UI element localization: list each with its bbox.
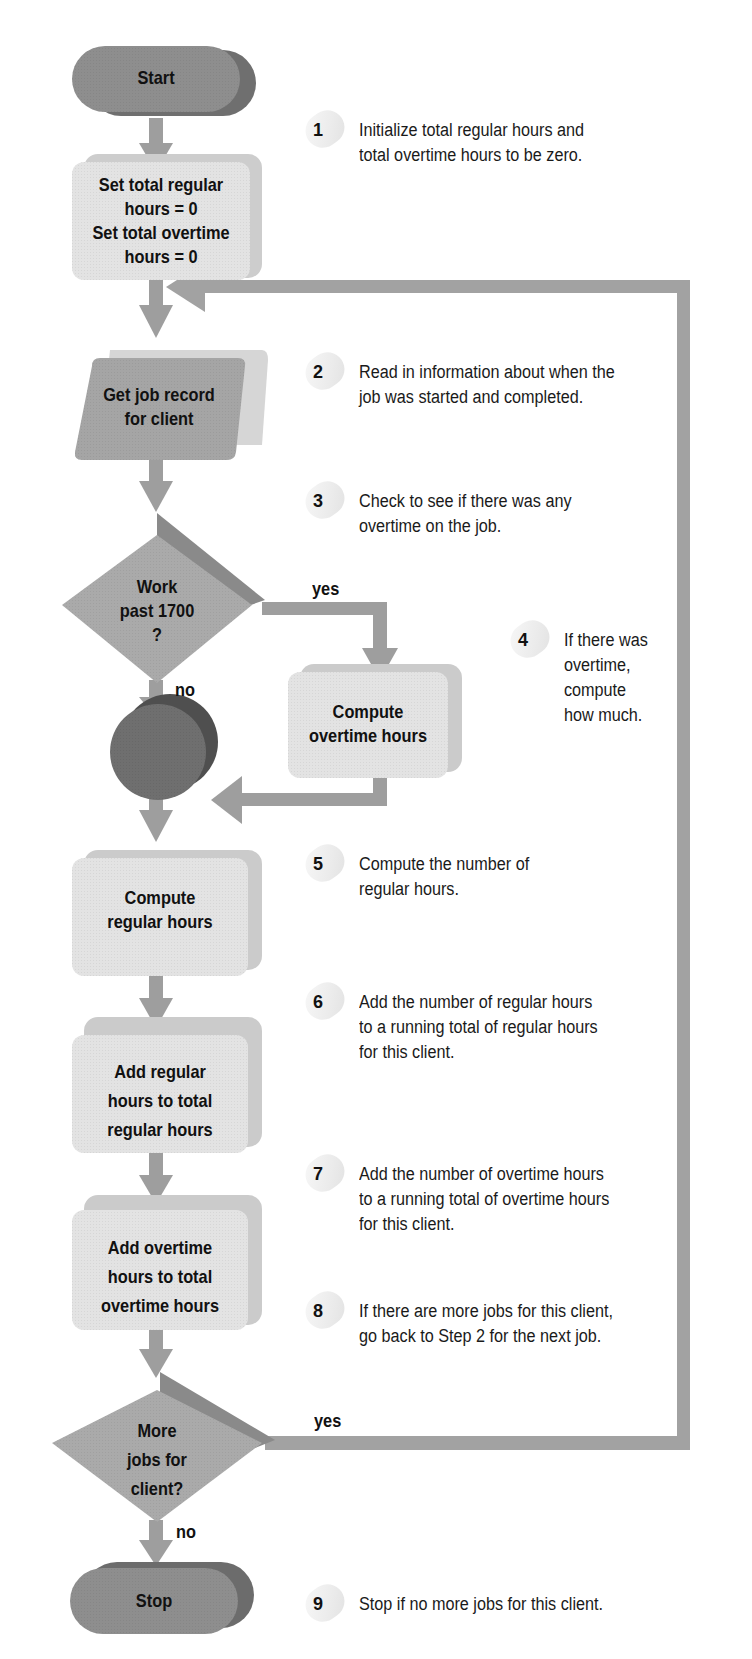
step-number: 5 (313, 854, 323, 875)
more-jobs-no-label: no (176, 1521, 196, 1543)
step-text: Initialize total regular hours and total… (359, 118, 584, 168)
step-text: Check to see if there was any overtime o… (359, 489, 572, 539)
init-label: Set total regular hours = 0 Set total ov… (84, 173, 237, 269)
add-overtime-label-line: hours to total (84, 1262, 235, 1291)
step-text: Read in information about when the job w… (359, 360, 615, 410)
step-number-badge: 3 (305, 491, 345, 525)
stop-label: Stop (82, 1589, 226, 1613)
step-number: 3 (313, 491, 323, 512)
compute-regular-label: Compute regular hours (84, 886, 235, 934)
step-annotation-4: 4 If there was overtime, compute how muc… (510, 630, 657, 728)
add-overtime-label: Add overtime hours to total overtime hou… (84, 1233, 235, 1320)
step-number-badge: 4 (510, 630, 550, 664)
compute-overtime-label-line: Compute (299, 700, 437, 724)
get-record-label: Get job record for client (86, 383, 232, 431)
step-number: 7 (313, 1164, 323, 1185)
step-text-line: to a running total of overtime hours (359, 1187, 609, 1212)
step-text-line: If there was (564, 628, 648, 653)
more-jobs-label-line: jobs for (101, 1445, 213, 1474)
step-text-line: Initialize total regular hours and (359, 118, 584, 143)
step-annotation-5: 5 Compute the number of regular hours. (305, 854, 548, 902)
work-past-label-line: past 1700 (101, 599, 213, 623)
step-annotation-7: 7 Add the number of overtime hours to a … (305, 1164, 637, 1237)
step-number: 6 (313, 992, 323, 1013)
step-text-line: If there are more jobs for this client, (359, 1299, 613, 1324)
step-annotation-6: 6 Add the number of regular hours to a r… (305, 992, 624, 1065)
get-record-label-line: for client (86, 407, 232, 431)
init-label-line: Set total overtime (84, 221, 237, 245)
more-jobs-label-line: client? (101, 1474, 213, 1503)
init-label-line: hours = 0 (84, 245, 237, 269)
step-number-badge: 5 (305, 854, 345, 888)
step-number-badge: 2 (305, 362, 345, 396)
step-text-line: Stop if no more jobs for this client. (359, 1592, 603, 1617)
step-text: Stop if no more jobs for this client. (359, 1592, 603, 1617)
step-number-badge: 9 (305, 1594, 345, 1628)
more-jobs-label-line: More (101, 1416, 213, 1445)
step-number: 8 (313, 1301, 323, 1322)
step-annotation-1: 1 Initialize total regular hours and tot… (305, 120, 609, 168)
step-text: If there are more jobs for this client, … (359, 1299, 613, 1349)
work-past-no-label: no (175, 679, 195, 701)
add-overtime-label-line: Add overtime (84, 1233, 235, 1262)
step-text-line: Read in information about when the (359, 360, 615, 385)
step-text-line: Add the number of regular hours (359, 990, 598, 1015)
add-overtime-label-line: overtime hours (84, 1291, 235, 1320)
compute-regular-label-line: regular hours (84, 910, 235, 934)
work-past-label-line: ? (101, 623, 213, 647)
step-number-badge: 8 (305, 1301, 345, 1335)
step-number-badge: 1 (305, 120, 345, 154)
add-regular-label: Add regular hours to total regular hours (84, 1057, 235, 1144)
step-text-line: Check to see if there was any (359, 489, 572, 514)
step-text: If there was overtime, compute how much. (564, 628, 648, 728)
more-jobs-label: More jobs for client? (101, 1416, 213, 1503)
step-text-line: compute (564, 678, 648, 703)
step-number: 4 (518, 630, 528, 651)
work-past-label-line: Work (101, 575, 213, 599)
flowchart-canvas: Start Set total regular hours = 0 Set to… (0, 0, 752, 1659)
step-text: Compute the number of regular hours. (359, 852, 529, 902)
compute-overtime-label-line: overtime hours (299, 724, 437, 748)
step-annotation-3: 3 Check to see if there was any overtime… (305, 491, 595, 539)
step-text-line: Compute the number of (359, 852, 529, 877)
add-regular-label-line: hours to total (84, 1086, 235, 1115)
step-text-line: job was started and completed. (359, 385, 615, 410)
step-text-line: total overtime hours to be zero. (359, 143, 584, 168)
step-text-line: for this client. (359, 1040, 598, 1065)
step-number: 2 (313, 362, 323, 383)
work-past-label: Work past 1700 ? (101, 575, 213, 647)
step-annotation-8: 8 If there are more jobs for this client… (305, 1301, 641, 1349)
init-label-line: hours = 0 (84, 197, 237, 221)
step-number: 1 (313, 120, 323, 141)
add-regular-label-line: regular hours (84, 1115, 235, 1144)
step-text-line: for this client. (359, 1212, 609, 1237)
step-annotation-9: 9 Stop if no more jobs for this client. (305, 1594, 630, 1628)
step-text-line: Add the number of overtime hours (359, 1162, 609, 1187)
get-record-label-line: Get job record (86, 383, 232, 407)
step-text-line: overtime, (564, 653, 648, 678)
step-number-badge: 6 (305, 992, 345, 1026)
compute-regular-label-line: Compute (84, 886, 235, 910)
init-label-line: Set total regular (84, 173, 237, 197)
step-text-line: regular hours. (359, 877, 529, 902)
compute-overtime-label: Compute overtime hours (299, 700, 437, 748)
step-number-badge: 7 (305, 1164, 345, 1198)
step-annotation-2: 2 Read in information about when the job… (305, 362, 643, 410)
start-label: Start (84, 66, 228, 90)
step-text: Add the number of regular hours to a run… (359, 990, 598, 1065)
step-text: Add the number of overtime hours to a ru… (359, 1162, 609, 1237)
step-number: 9 (313, 1594, 323, 1615)
connector-shape (110, 694, 218, 800)
step-text-line: overtime on the job. (359, 514, 572, 539)
work-past-yes-label: yes (312, 578, 339, 600)
step-text-line: go back to Step 2 for the next job. (359, 1324, 613, 1349)
add-regular-label-line: Add regular (84, 1057, 235, 1086)
step-text-line: to a running total of regular hours (359, 1015, 598, 1040)
step-text-line: how much. (564, 703, 648, 728)
more-jobs-yes-label: yes (314, 1410, 341, 1432)
